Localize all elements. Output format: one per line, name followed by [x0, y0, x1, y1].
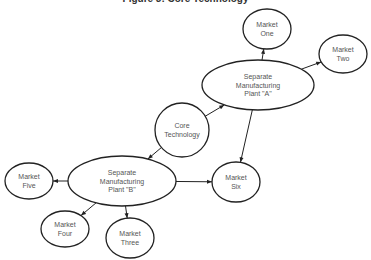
edge-plantA-to-m1	[262, 49, 264, 60]
node-label: Market	[18, 173, 39, 180]
node-label: One	[260, 30, 273, 37]
flow-diagram: CoreTechnologySeparateManufacturingPlant…	[0, 0, 371, 260]
node-label: Four	[58, 230, 73, 237]
edge-plantA-to-m2	[301, 62, 321, 69]
node-label: Three	[121, 239, 139, 246]
edge-plantB-to-m3	[126, 206, 128, 218]
node-m5: MarketFive	[5, 163, 53, 199]
node-plantB: SeparateManufacturingPlant "B"	[68, 156, 176, 206]
node-label: Market	[54, 221, 75, 228]
edge-plantB-to-m4	[81, 203, 96, 216]
node-m1: MarketOne	[243, 9, 291, 49]
node-label: Five	[22, 182, 35, 189]
node-m2: MarketTwo	[319, 35, 367, 73]
node-plantA: SeparateManufacturingPlant "A"	[202, 60, 314, 110]
node-label: Core	[174, 122, 189, 129]
node-label: Two	[337, 55, 350, 62]
edge-core-to-plantB	[148, 147, 162, 159]
node-label: Separate	[108, 169, 137, 177]
node-label: Manufacturing	[236, 82, 280, 90]
node-label: Plant "B"	[108, 186, 136, 193]
node-m3: MarketThree	[106, 218, 154, 258]
node-label: Plant "A"	[244, 90, 272, 97]
node-label: Market	[119, 230, 140, 237]
node-label: Manufacturing	[100, 178, 144, 186]
edge-plantA-to-m6	[240, 110, 252, 162]
node-core: CoreTechnology	[155, 103, 209, 157]
node-label: Six	[231, 183, 241, 190]
node-label: Market	[225, 174, 246, 181]
node-label: Technology	[164, 131, 200, 139]
node-label: Separate	[244, 73, 273, 81]
node-label: Market	[332, 46, 353, 53]
node-m4: MarketFour	[41, 211, 89, 247]
node-m6: MarketSix	[212, 162, 260, 202]
nodes-layer: CoreTechnologySeparateManufacturingPlant…	[5, 9, 367, 258]
edge-core-to-plantA	[205, 105, 224, 116]
node-label: Market	[256, 21, 277, 28]
